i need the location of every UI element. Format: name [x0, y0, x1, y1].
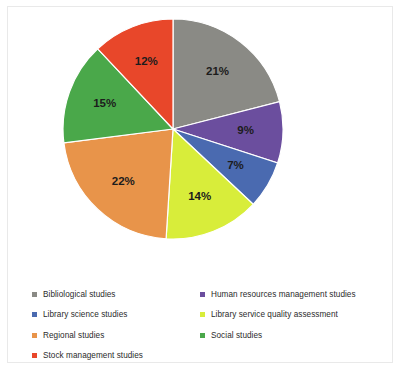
legend-item[interactable]: Library service quality assessment: [200, 308, 394, 322]
legend-item[interactable]: Bibliological studies: [32, 287, 204, 301]
legend-color-swatch: [32, 333, 37, 338]
legend-item-label: Regional studies: [43, 331, 104, 340]
legend-item-label: Library science studies: [43, 310, 127, 319]
legend-item[interactable]: Regional studies: [32, 328, 204, 342]
legend-color-swatch: [32, 353, 37, 358]
pie-slice-label: 14%: [188, 190, 211, 202]
legend-item-label: Library service quality assessment: [211, 310, 338, 319]
legend-column-right: Human resources management studiesLibrar…: [200, 287, 394, 349]
legend-color-swatch: [200, 333, 205, 338]
pie-slice-label: 22%: [112, 175, 135, 187]
legend-item[interactable]: Stock management studies: [32, 349, 204, 363]
legend-item-label: Human resources management studies: [211, 290, 356, 299]
pie-chart-svg: 21%9%7%14%22%15%12%: [61, 17, 285, 241]
pie-chart-card: 21%9%7%14%22%15%12% Bibliological studie…: [7, 6, 393, 363]
legend-item[interactable]: Social studies: [200, 328, 394, 342]
legend-item[interactable]: Library science studies: [32, 308, 204, 322]
pie-slice-label: 9%: [237, 124, 254, 136]
pie-slice-label: 15%: [93, 97, 116, 109]
legend-column-left: Bibliological studiesLibrary science stu…: [32, 287, 204, 369]
legend-item-label: Social studies: [211, 331, 262, 340]
legend-item[interactable]: Human resources management studies: [200, 287, 394, 301]
chart-legend: Bibliological studiesLibrary science stu…: [8, 287, 394, 362]
legend-color-swatch: [200, 312, 205, 317]
legend-color-swatch: [32, 292, 37, 297]
pie-chart-plot-area: 21%9%7%14%22%15%12%: [8, 7, 394, 283]
pie-slice-label: 12%: [135, 55, 158, 67]
legend-item-label: Stock management studies: [43, 351, 143, 360]
legend-color-swatch: [32, 312, 37, 317]
pie-slice-label: 21%: [206, 65, 229, 77]
legend-color-swatch: [200, 292, 205, 297]
legend-item-label: Bibliological studies: [43, 290, 116, 299]
pie-slice-label: 7%: [227, 159, 244, 171]
